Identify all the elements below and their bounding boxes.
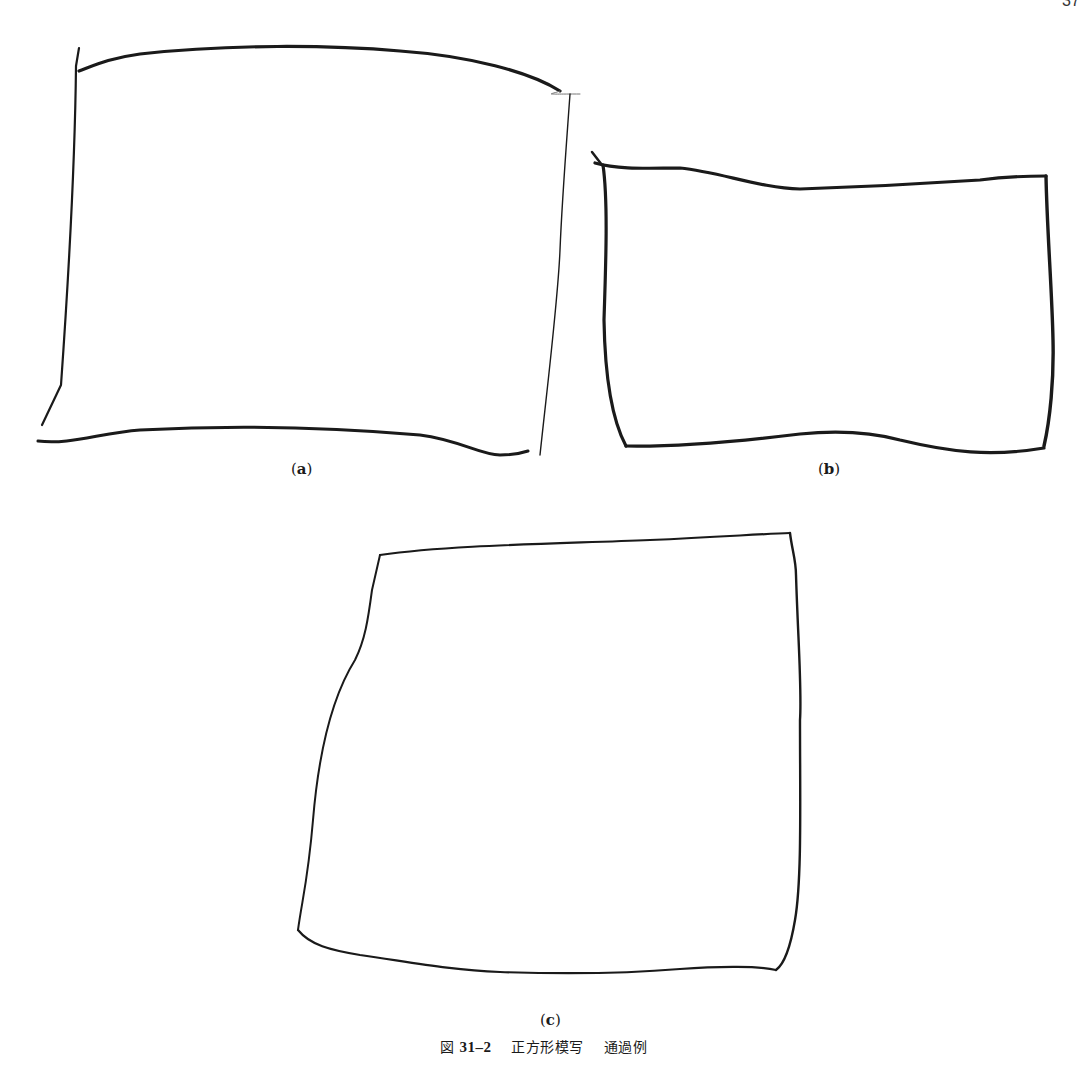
caption-subtitle: 通過例	[604, 1039, 648, 1055]
caption-prefix: 図	[440, 1039, 455, 1055]
caption-number: 31–2	[459, 1039, 491, 1055]
figure-label-c: (c)	[540, 1011, 561, 1029]
figure-label-a: (a)	[291, 460, 312, 478]
drawing-a	[38, 46, 580, 455]
drawing-b	[592, 152, 1053, 453]
figure-caption: 図 31–2 正方形模写 通過例	[0, 1036, 1087, 1056]
drawing-c	[298, 533, 801, 973]
hand-drawn-squares	[0, 0, 1087, 1076]
figure-label-b: (b)	[818, 460, 840, 478]
caption-title: 正方形模写	[511, 1039, 584, 1055]
